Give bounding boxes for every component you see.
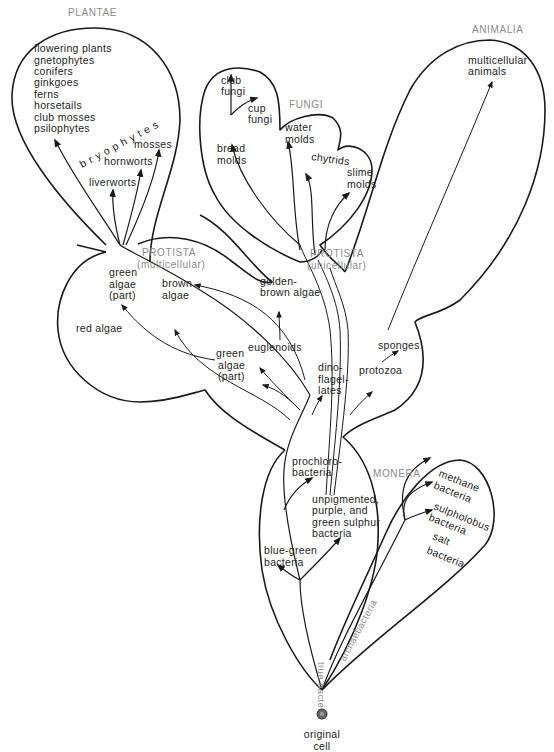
label-water: water — [284, 121, 312, 133]
kingdom-label-protista-uni: PROTISTA — [310, 248, 364, 259]
label-brown: brown — [162, 277, 192, 289]
arrow-water-molds — [288, 142, 300, 250]
label-ginkgoes: ginkgoes — [34, 76, 78, 88]
label-water-molds: molds — [285, 133, 315, 145]
label-club-fungi: fungi — [221, 85, 245, 97]
arrow-protozoa — [350, 392, 372, 415]
label-archaebacteria: archaebacteria — [337, 597, 379, 663]
arrow-green-algae-multi — [122, 305, 215, 360]
label-golden-brown-algae: brown algae — [260, 286, 321, 298]
kingdom-label-animalia: ANIMALIA — [472, 24, 523, 35]
label-bread: bread — [217, 142, 245, 154]
label-animals: animals — [468, 65, 506, 77]
kingdom-label-monera: MONERA — [373, 468, 421, 479]
label-original: original — [304, 728, 340, 740]
label-sponges: sponges — [378, 339, 420, 351]
label-brown-algae: algae — [162, 289, 189, 301]
label-blue-green: blue-green — [264, 544, 317, 556]
label-horsetails: horsetails — [34, 99, 82, 111]
arrow-sponges — [382, 351, 398, 362]
label-hornworts: hornworts — [104, 155, 153, 167]
arrow-multicellular-animals — [388, 82, 492, 330]
label-psilophytes: psilophytes — [34, 122, 90, 134]
label-blue-green-bacteria: bacteria — [264, 556, 304, 568]
label-cup-fungi: fungi — [248, 113, 272, 125]
tree-of-life-diagram: PLANTAE FUNGI ANIMALIA PROTISTA (multice… — [0, 0, 554, 752]
monera-left-outline — [259, 450, 322, 690]
outer-outline — [12, 28, 545, 690]
kingdom-label-protista-multi: PROTISTA — [142, 247, 196, 258]
arrow-prochlorobacteria — [284, 478, 312, 510]
label-lates: lates — [318, 384, 342, 396]
label-euglenoids: euglenoids — [248, 341, 302, 353]
kingdom-label-protista-uni-sub: (unicellular) — [307, 260, 367, 271]
arrow-brown-algae — [195, 285, 305, 380]
label-part-1: (part) — [109, 289, 136, 301]
label-dino: dino- — [318, 361, 343, 373]
label-red-algae: red algae — [76, 322, 122, 334]
kingdom-label-fungi: FUNGI — [289, 99, 323, 110]
label-unpigmented-bacteria: bacteria — [312, 527, 352, 539]
arrow-green-algae-uni — [263, 385, 300, 410]
label-protozoa: protozoa — [359, 364, 402, 376]
kingdom-label-plantae: PLANTAE — [68, 7, 117, 18]
label-salt-bacteria: bacteria — [425, 544, 466, 570]
arrow-liverworts — [113, 190, 120, 245]
original-cell-icon — [317, 709, 327, 719]
fungi-inner-outline — [215, 195, 322, 262]
label-mosses: mosses — [134, 138, 172, 150]
label-purple-and: purple, and — [312, 504, 368, 516]
animalia-lobe-outline — [345, 40, 545, 410]
label-green-1: green — [109, 266, 137, 278]
label-bread-molds: molds — [217, 154, 247, 166]
arrow-slime-molds — [325, 193, 349, 250]
label-slime-molds: molds — [347, 178, 377, 190]
protista-unicellular-lobe-outline — [322, 410, 395, 690]
label-chytrids: chytrids — [311, 150, 351, 167]
label-flowering-plants: flowering plants — [34, 42, 112, 54]
label-green-2: green — [216, 347, 244, 359]
arrow-chytrids — [306, 174, 315, 255]
label-cell: cell — [314, 740, 331, 752]
arrow-golden-brown — [279, 312, 280, 340]
label-slime: slime — [347, 166, 373, 178]
label-prochloro-bacteria: bacteria — [292, 466, 332, 478]
branches — [55, 75, 492, 690]
plantae-list: flowering plants gnetophytes conifers gi… — [34, 42, 112, 134]
label-part-2: (part) — [218, 370, 245, 382]
label-liverworts: liverworts — [89, 176, 136, 188]
kingdom-label-protista-multi-sub: (multicellular) — [137, 259, 205, 270]
arrow-dinoflagellates — [312, 396, 322, 415]
